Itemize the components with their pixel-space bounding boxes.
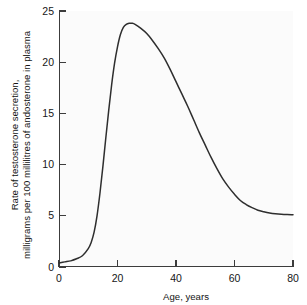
x-tick-label: 0 [56,272,62,284]
y-tick-label: 15 [42,107,54,119]
x-tick-label: 20 [112,272,124,284]
y-tick-label: 20 [42,56,54,68]
y-axis-title-line2: milligrams per 100 millilitres of andost… [21,30,32,259]
line-chart: 0 5 10 15 20 25 0 20 40 60 80 Age, years… [0,0,307,305]
x-axis-tick-labels: 0 20 40 60 80 [56,272,299,284]
x-axis-title: Age, years [163,291,209,302]
y-axis-title-line1: Rate of testosterone secretion, [9,80,20,211]
y-axis-tick-labels: 0 5 10 15 20 25 [42,5,54,273]
chart-figure: 0 5 10 15 20 25 0 20 40 60 80 Age, years… [0,0,307,305]
y-tick-label: 0 [48,261,54,273]
x-tick-label: 80 [287,272,299,284]
y-tick-label: 5 [48,209,54,221]
y-tick-label: 10 [42,158,54,170]
x-tick-label: 60 [229,272,241,284]
x-tick-label: 40 [170,272,182,284]
y-tick-label: 25 [42,5,54,17]
